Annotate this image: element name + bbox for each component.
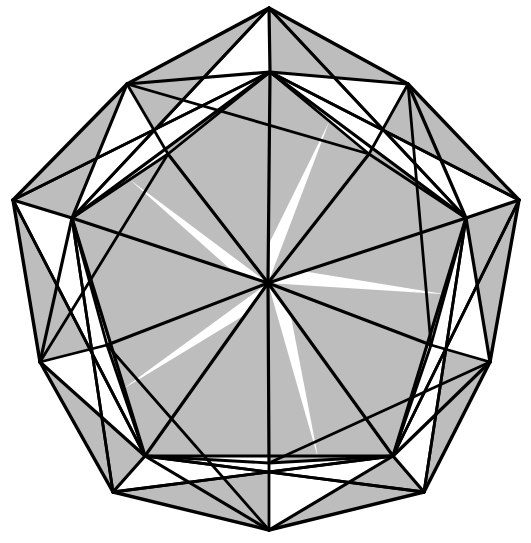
center-spoke-hub [268,72,270,283]
polyhedron-svg [0,0,531,543]
polyhedron-figure [0,0,531,543]
hub-to-apex-edge [269,8,270,72]
center-spoke-mid [268,283,269,463]
